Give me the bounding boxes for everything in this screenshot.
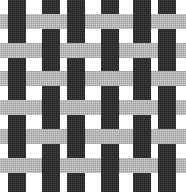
weft-band-segment xyxy=(176,158,186,173)
warp-bar-segment xyxy=(42,0,60,14)
weft-band-segment xyxy=(176,100,186,115)
weft-band-segment xyxy=(119,100,158,115)
warp-bar-segment xyxy=(67,0,85,43)
weft-band-segment xyxy=(0,129,8,144)
weft-band-segment xyxy=(119,158,158,173)
weft-band-segment xyxy=(0,71,8,86)
warp-bar-segment xyxy=(101,144,119,192)
warp-bar-segment xyxy=(133,115,151,158)
warp-bar-segment xyxy=(67,58,85,100)
weft-band-segment xyxy=(60,43,101,58)
warp-bar-segment xyxy=(42,144,60,192)
warp-bar-segment xyxy=(158,86,176,129)
warp-bar-segment xyxy=(158,29,176,71)
weave-svg xyxy=(0,0,186,192)
weft-band-segment xyxy=(176,43,186,58)
warp-bar-segment xyxy=(158,0,176,14)
warp-bar-segment xyxy=(133,58,151,100)
weft-band-segment xyxy=(151,14,186,29)
weft-band-segment xyxy=(0,100,42,115)
weft-band-segment xyxy=(26,71,67,86)
warp-bar-segment xyxy=(8,0,26,43)
warp-bar-segment xyxy=(101,0,119,14)
warp-bar-segment xyxy=(67,115,85,158)
weft-band-segment xyxy=(0,14,8,29)
weft-band-segment xyxy=(119,43,158,58)
warp-bar-segment xyxy=(133,173,151,192)
weft-band-segment xyxy=(60,100,101,115)
weft-band-segment xyxy=(151,129,186,144)
warp-bar-segment xyxy=(8,115,26,158)
weft-band-segment xyxy=(85,71,133,86)
warp-bar-segment xyxy=(101,29,119,71)
warp-bar-segment xyxy=(42,29,60,71)
warp-bar-segment xyxy=(8,173,26,192)
weft-band-segment xyxy=(0,43,42,58)
weft-band-segment xyxy=(0,158,42,173)
weft-band-segment xyxy=(151,71,186,86)
warp-bar-segment xyxy=(8,58,26,100)
warp-bar-segment xyxy=(101,86,119,129)
weave-pattern-canvas xyxy=(0,0,186,192)
weft-band-segment xyxy=(26,14,67,29)
warp-bar-segment xyxy=(133,0,151,43)
warp-bar-segment xyxy=(42,86,60,129)
weft-band-segment xyxy=(26,129,67,144)
warp-bar-segment xyxy=(158,144,176,192)
weft-band-segment xyxy=(85,129,133,144)
warp-bar-segment xyxy=(67,173,85,192)
weft-band-segment xyxy=(85,14,133,29)
weft-band-segment xyxy=(60,158,101,173)
